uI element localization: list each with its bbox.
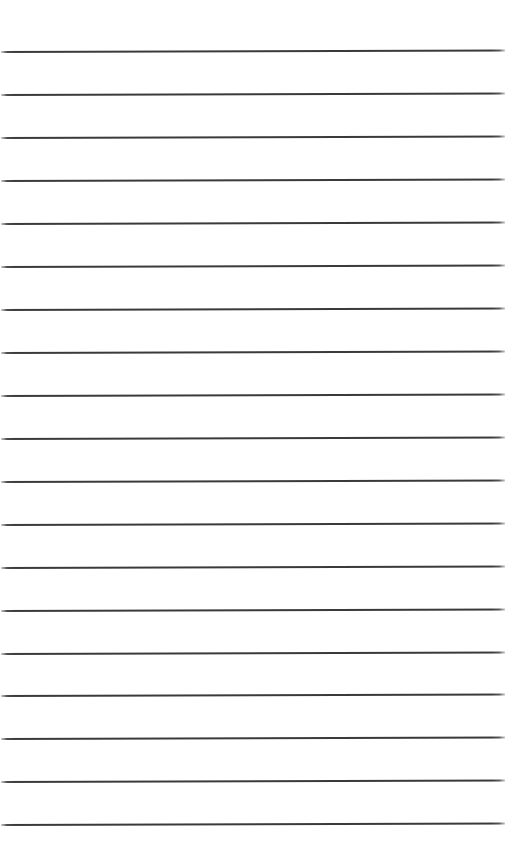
ruled-line [1, 179, 505, 182]
ruled-line [1, 523, 505, 526]
ruled-line [1, 823, 505, 826]
ruled-line [1, 50, 505, 53]
ruled-line [1, 351, 505, 354]
ruled-line [1, 737, 505, 740]
ruled-line [1, 136, 505, 139]
ruled-line [1, 480, 505, 483]
ruled-line [1, 780, 505, 783]
ruled-line [1, 437, 505, 440]
ruled-line [1, 222, 505, 225]
ruled-line [1, 265, 505, 268]
ruled-line [1, 308, 505, 311]
ruled-line [1, 93, 505, 96]
ruled-line [1, 652, 505, 655]
ruled-line [1, 694, 505, 697]
ruled-line [1, 609, 505, 612]
lined-paper-sheet [0, 0, 506, 867]
ruled-line [1, 394, 505, 397]
ruled-line [1, 566, 505, 569]
